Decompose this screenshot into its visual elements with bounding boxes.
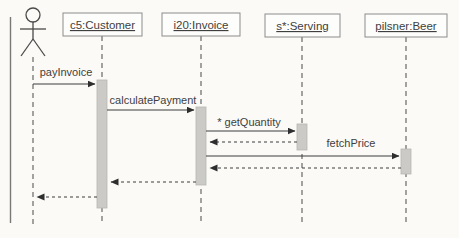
message-label-calculatepayment: calculatePayment — [110, 94, 197, 106]
message-label-getquantity: * getQuantity — [217, 116, 281, 128]
object-label-beer: pilsner:Beer — [375, 20, 437, 32]
object-box-invoice: i20:Invoice — [162, 13, 240, 36]
activation-bar-invoice — [196, 107, 206, 185]
message-payinvoice: payInvoice — [33, 66, 95, 84]
actor-left-leg — [21, 39, 33, 56]
object-box-beer: pilsner:Beer — [365, 14, 447, 37]
object-label-invoice: i20:Invoice — [174, 19, 229, 31]
message-getquantity: * getQuantity — [206, 116, 295, 131]
message-label-payinvoice: payInvoice — [40, 66, 93, 78]
actor-figure — [20, 8, 46, 56]
sequence-diagram-canvas: c5:Customer i20:Invoice s*:Serving pilsn… — [0, 0, 459, 238]
actor-head — [26, 8, 40, 22]
actor-right-leg — [33, 39, 45, 56]
activation-bar-serving — [297, 124, 307, 150]
object-box-serving: s*:Serving — [265, 14, 340, 37]
sequence-diagram: c5:Customer i20:Invoice s*:Serving pilsn… — [0, 0, 459, 238]
activation-bar-beer — [401, 149, 411, 174]
activation-bar-customer — [97, 80, 107, 208]
object-label-serving: s*:Serving — [276, 20, 328, 32]
object-label-customer: c5:Customer — [70, 19, 135, 31]
message-calculatepayment: calculatePayment — [107, 94, 196, 110]
message-label-fetchprice: fetchPrice — [327, 137, 376, 149]
object-box-customer: c5:Customer — [63, 13, 142, 36]
